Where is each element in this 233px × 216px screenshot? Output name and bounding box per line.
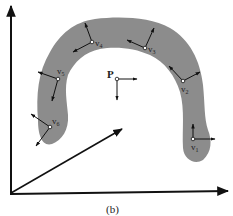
figure-caption: (b): [106, 203, 119, 216]
x-axis: [11, 191, 228, 194]
z-axis: [11, 129, 122, 193]
svg-text:P: P: [107, 68, 114, 80]
point-p: P: [107, 68, 137, 100]
figure: v1 v2 v3 v4 v5 v6 P: [0, 0, 233, 216]
